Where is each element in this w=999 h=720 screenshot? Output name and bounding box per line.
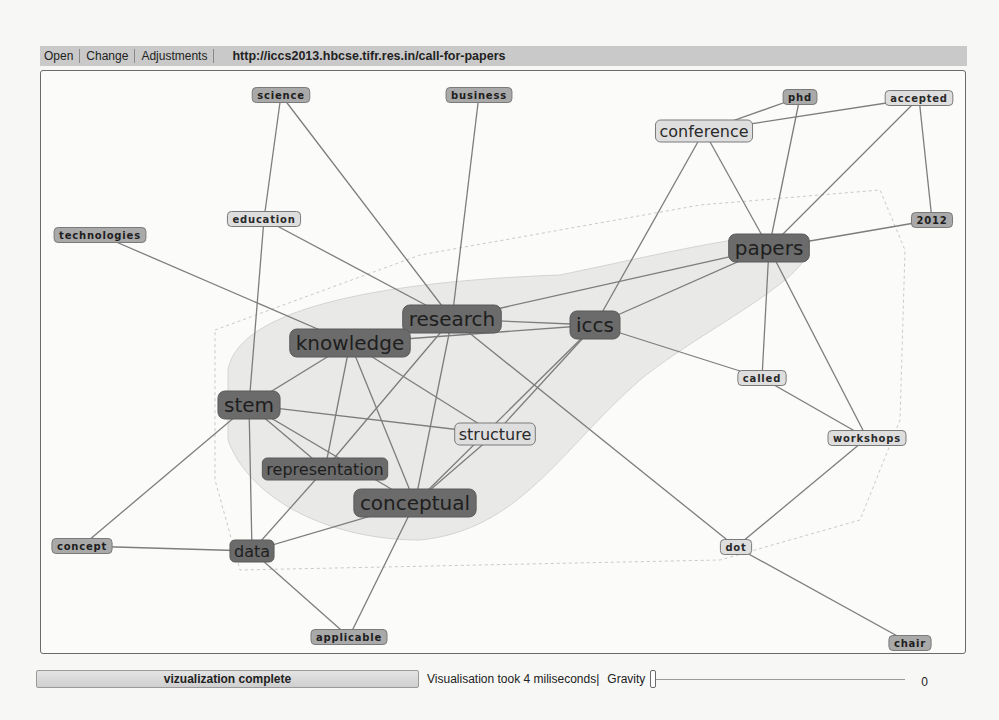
node-label: stem (224, 393, 274, 417)
node-chair[interactable]: chair (889, 636, 931, 651)
node-label: science (257, 90, 305, 101)
status-bar: vizualization complete Visualisation too… (36, 668, 976, 690)
node-label: conceptual (360, 491, 470, 515)
node-called[interactable]: called (738, 371, 786, 386)
node-label: accepted (890, 93, 948, 104)
graph-canvas[interactable]: sciencebusinessphdacceptedconferenceeduc… (40, 70, 966, 654)
node-label: research (409, 307, 496, 331)
node-label: workshops (833, 433, 901, 444)
edge-technologies-knowledge (100, 235, 350, 343)
node-label: phd (788, 92, 812, 103)
cluster-hull-inner (228, 235, 808, 540)
node-2012[interactable]: 2012 (911, 213, 952, 228)
node-dot[interactable]: dot (720, 540, 751, 555)
node-label: knowledge (296, 331, 404, 355)
gravity-slider-track[interactable] (653, 679, 905, 680)
node-label: papers (735, 236, 804, 260)
node-stem[interactable]: stem (218, 391, 280, 419)
gravity-slider-thumb[interactable] (650, 670, 656, 688)
node-label: conference (659, 122, 748, 141)
node-structure[interactable]: structure (455, 423, 536, 445)
edge-science-education (264, 95, 281, 219)
node-conceptual[interactable]: conceptual (354, 489, 476, 517)
edge-conference-papers (704, 131, 769, 248)
node-label: structure (459, 425, 532, 444)
node-representation[interactable]: representation (262, 458, 387, 480)
node-phd[interactable]: phd (783, 90, 817, 105)
node-label: applicable (316, 632, 382, 643)
node-label: concept (57, 541, 107, 552)
node-iccs[interactable]: iccs (570, 311, 620, 339)
node-science[interactable]: science (252, 88, 310, 103)
progress-label: vizualization complete (164, 672, 291, 686)
node-workshops[interactable]: workshops (828, 431, 906, 446)
graph-visualizer-app: Open Change Adjustments http://iccs2013.… (0, 0, 999, 720)
node-accepted[interactable]: accepted (885, 91, 953, 106)
node-label: business (451, 90, 507, 101)
edge-phd-papers (769, 97, 800, 248)
node-label: data (234, 542, 270, 561)
gravity-slider[interactable] (650, 669, 905, 689)
node-label: called (743, 373, 781, 384)
node-technologies[interactable]: technologies (54, 228, 146, 243)
node-applicable[interactable]: applicable (311, 630, 387, 645)
edge-data-applicable (252, 551, 349, 637)
node-label: iccs (576, 313, 614, 337)
node-concept[interactable]: concept (52, 539, 112, 554)
progress-bar: vizualization complete (36, 670, 419, 688)
node-papers[interactable]: papers (729, 234, 810, 262)
edge-workshops-dot (736, 438, 867, 547)
node-knowledge[interactable]: knowledge (290, 329, 410, 357)
gravity-value: 0 (921, 675, 928, 689)
node-label: technologies (59, 230, 141, 241)
node-label: representation (266, 460, 383, 479)
graph-svg[interactable]: sciencebusinessphdacceptedconferenceeduc… (0, 0, 999, 720)
edge-dot-chair (736, 547, 910, 643)
node-research[interactable]: research (403, 305, 502, 333)
node-label: 2012 (916, 215, 947, 226)
edge-science-research (281, 95, 452, 319)
timing-text: Visualisation took 4 miliseconds| (427, 672, 599, 686)
node-education[interactable]: education (227, 212, 300, 227)
node-label: chair (894, 638, 926, 649)
node-business[interactable]: business (446, 88, 512, 103)
gravity-label: Gravity (607, 672, 645, 686)
node-conference[interactable]: conference (655, 120, 752, 142)
node-label: dot (725, 542, 746, 553)
edge-accepted-2012 (919, 98, 932, 220)
edge-stem-concept (82, 405, 249, 546)
node-data[interactable]: data (230, 540, 274, 562)
node-label: education (232, 214, 295, 225)
